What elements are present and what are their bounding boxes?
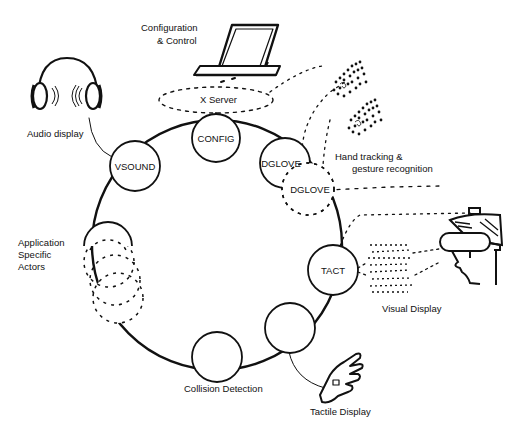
audio-display-label: Audio display [27, 128, 84, 140]
configuration-label: Configuration [141, 22, 198, 34]
app-actors-label-1: Application [18, 237, 64, 249]
audio-connector [89, 118, 112, 157]
node-viz-label: TACT [321, 265, 345, 276]
node-app-actor-1 [84, 222, 132, 246]
tactile-connector [289, 352, 325, 388]
tactile-glove-icon [320, 354, 363, 403]
node-app-actor-4 [93, 273, 143, 323]
node-dglove-dashed-label: DGLOVE [290, 184, 330, 195]
node-dglove-label: DGLOVE [261, 158, 301, 169]
headphones-icon [32, 58, 101, 109]
node-collision [192, 332, 242, 382]
laptop-icon [194, 25, 280, 75]
diagram-canvas [0, 0, 523, 426]
node-tact [265, 303, 315, 353]
gesture-recognition-label: gesture recognition [352, 163, 433, 175]
hand-tracking-label: Hand tracking & [335, 151, 403, 163]
collision-detection-label: Collision Detection [184, 383, 263, 395]
node-config-label: CONFIG [198, 133, 235, 144]
app-actors-label-3: Actors [18, 261, 45, 273]
control-label: & Control [157, 35, 197, 47]
visual-display-label: Visual Display [382, 303, 442, 315]
node-vsound-label: VSOUND [115, 161, 156, 172]
app-actors-label-2: Specific [18, 249, 51, 261]
visual-point-cloud-icon [368, 245, 412, 292]
hmd-head-icon [440, 208, 502, 285]
x-server-label: X Server [200, 94, 237, 106]
tactile-display-label: Tactile Display [310, 406, 371, 418]
hand-point-cloud-icon [333, 61, 383, 136]
